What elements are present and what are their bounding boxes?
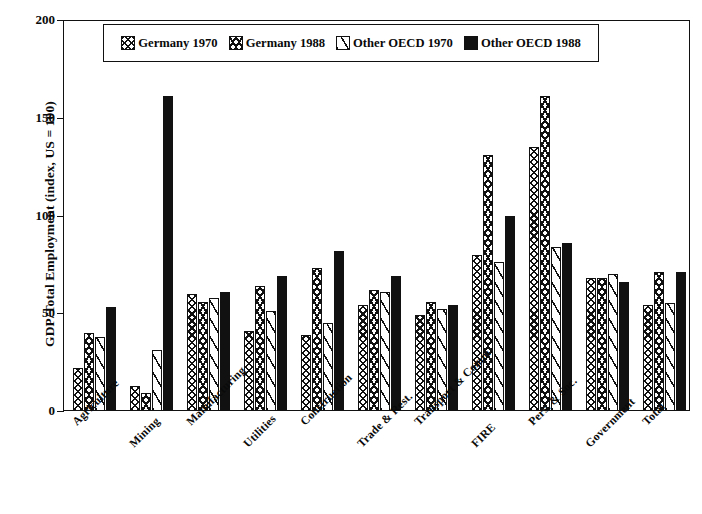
x-tick-label: Mining bbox=[127, 415, 163, 451]
x-tick-label: Construction bbox=[298, 371, 355, 428]
x-tick-label: Trade & Rest. bbox=[355, 390, 415, 450]
bar-chart: GDP/Total Employment (index, US = 100) 2… bbox=[0, 0, 702, 514]
x-axis-labels: AgricultureMiningManufacturingUtilitiesC… bbox=[0, 0, 702, 514]
x-tick-label: Agriculture bbox=[70, 377, 122, 429]
x-tick-label: Utilities bbox=[241, 412, 279, 450]
x-tick-label: Total bbox=[640, 400, 668, 428]
x-tick-label: Government bbox=[583, 395, 638, 450]
x-tick-label: Pers. & Soc. bbox=[526, 374, 580, 428]
x-tick-label: FIRE bbox=[469, 421, 498, 450]
x-tick-label: Transport & Comm. bbox=[412, 345, 496, 429]
x-tick-label: Manufacturing bbox=[184, 364, 248, 428]
